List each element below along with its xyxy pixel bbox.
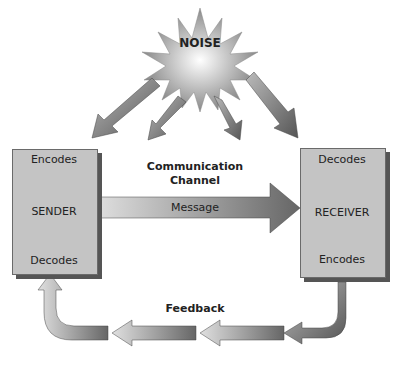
receiver-title: RECEIVER bbox=[300, 206, 384, 219]
receiver-encodes-label: Encodes bbox=[300, 253, 384, 266]
message-label: Message bbox=[124, 201, 266, 214]
noise-label: NOISE bbox=[172, 36, 228, 50]
sender-decodes-label: Decodes bbox=[12, 254, 96, 267]
receiver-decodes-label: Decodes bbox=[300, 153, 384, 166]
feedback-title: Feedback bbox=[124, 302, 266, 315]
feedback-return-arrow-icon bbox=[284, 282, 346, 344]
channel-title-line1: Communication bbox=[124, 160, 266, 173]
noise-starburst-icon bbox=[142, 8, 258, 112]
sender-title: SENDER bbox=[12, 205, 96, 218]
feedback-to-sender-arrow-icon bbox=[38, 274, 108, 340]
channel-title-line2: Channel bbox=[124, 174, 266, 187]
feedback-arrow-icon bbox=[112, 320, 196, 346]
sender-encodes-label: Encodes bbox=[12, 153, 96, 166]
feedback-arrow-icon bbox=[200, 320, 284, 346]
